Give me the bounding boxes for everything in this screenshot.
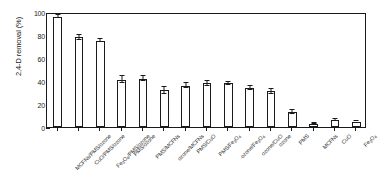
x-tick-mark <box>270 128 271 131</box>
bar <box>117 80 126 127</box>
error-bar-cap <box>290 113 295 114</box>
error-bar-cap <box>268 88 273 89</box>
y-tick-label: 80 <box>38 33 45 40</box>
bar-column <box>96 12 105 127</box>
error-bar-cap <box>226 84 231 85</box>
x-tick-mark <box>227 128 228 131</box>
error-bar-cap <box>55 17 60 18</box>
bar <box>53 17 62 127</box>
x-tick-mark <box>99 128 100 131</box>
y-tick-label: 100 <box>34 10 45 17</box>
error-bar-cap <box>332 118 337 119</box>
error-bar-cap <box>204 80 209 81</box>
error-bar-cap <box>119 75 124 76</box>
bar-column <box>139 12 148 127</box>
error-bar-cap <box>140 80 145 81</box>
bar-column <box>53 12 62 127</box>
y-tick-label: 40 <box>38 79 45 86</box>
bar <box>224 83 233 127</box>
x-tick-label: PMS <box>298 133 311 146</box>
x-tick-label: CuO <box>340 133 352 145</box>
x-tick-mark <box>163 128 164 131</box>
error-bar-cap <box>55 14 60 15</box>
y-axis: 020406080100 <box>0 13 46 128</box>
error-bar-cap <box>98 41 103 42</box>
error-bar-cap <box>332 120 337 121</box>
plot-area <box>46 13 366 128</box>
y-tick-label: 0 <box>41 125 45 132</box>
bar <box>203 83 212 127</box>
bar <box>181 86 190 127</box>
error-bar-cap <box>162 86 167 87</box>
x-tick-mark <box>355 128 356 131</box>
bar <box>96 41 105 127</box>
x-tick-mark <box>142 128 143 131</box>
x-tick-mark <box>334 128 335 131</box>
error-bar-cap <box>76 39 81 40</box>
bar <box>75 37 84 127</box>
y-tick-mark <box>46 128 50 129</box>
x-tick-mark <box>206 128 207 131</box>
bar-column <box>352 12 361 127</box>
bar-column <box>309 12 318 127</box>
bar <box>139 79 148 127</box>
bar-column <box>288 12 297 127</box>
error-bar-cap <box>204 85 209 86</box>
x-tick-mark <box>78 128 79 131</box>
x-tick-label: Fe3O4 <box>363 133 379 149</box>
bar-column <box>331 12 340 127</box>
error-bar-cap <box>311 122 316 123</box>
x-tick-mark <box>313 128 314 131</box>
error-bar-cap <box>290 109 295 110</box>
bar-column <box>160 12 169 127</box>
error-bar-cap <box>354 120 359 121</box>
error-bar-cap <box>162 93 167 94</box>
error-bar-cap <box>247 85 252 86</box>
error-bar-cap <box>311 123 316 124</box>
error-bar-cap <box>226 81 231 82</box>
bar <box>245 88 254 127</box>
x-tick-mark <box>57 128 58 131</box>
error-bar-cap <box>247 89 252 90</box>
bar-column <box>224 12 233 127</box>
bar-column <box>117 12 126 127</box>
error-bar-cap <box>183 87 188 88</box>
error-bar-cap <box>268 93 273 94</box>
error-bar-cap <box>183 82 188 83</box>
y-tick-label: 60 <box>38 56 45 63</box>
x-tick-mark <box>249 128 250 131</box>
x-tick-mark <box>121 128 122 131</box>
bar <box>267 91 276 127</box>
x-tick-mark <box>185 128 186 131</box>
bar-column <box>75 12 84 127</box>
bar-column <box>203 12 212 127</box>
error-bar-cap <box>98 38 103 39</box>
bar-series <box>47 14 365 127</box>
x-tick-label: ozone/Fe3O4 <box>239 133 266 160</box>
error-bar-cap <box>140 75 145 76</box>
x-tick-label: MCFNs <box>321 133 338 150</box>
bar-column <box>181 12 190 127</box>
x-tick-mark <box>291 128 292 131</box>
y-tick-label: 20 <box>38 102 45 109</box>
bar-column <box>267 12 276 127</box>
bar <box>160 90 169 127</box>
error-bar-cap <box>354 122 359 123</box>
chart-figure: 020406080100 2,4-D removal (%) MCFNs/PMS… <box>0 0 390 194</box>
bar-column <box>245 12 254 127</box>
error-bar-cap <box>119 82 124 83</box>
error-bar-cap <box>76 34 81 35</box>
y-axis-title: 2,4-D removal (%) <box>14 0 23 102</box>
